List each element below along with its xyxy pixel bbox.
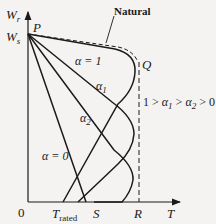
inequality-label: 1 > 1α1 > α2 > 0 (143, 96, 215, 111)
point-p-label: P (33, 21, 41, 34)
natural-label: Natural (114, 6, 151, 17)
ws-label: Ws (6, 30, 20, 46)
alpha-0-label: α = 0 (42, 150, 68, 162)
wr-label: Wr (6, 8, 20, 24)
alpha2-label: α2 (80, 112, 91, 127)
t-rated-label: Trated (52, 207, 77, 223)
alpha1-label: α1 (96, 80, 107, 95)
t-axis-label: T (167, 207, 174, 220)
r-label: R (134, 207, 142, 220)
alpha-1-label: α = 1 (75, 55, 101, 67)
s-label: S (93, 207, 100, 220)
point-q-label: Q (142, 58, 151, 71)
natural-leader (106, 16, 114, 43)
origin-label: 0 (18, 206, 25, 219)
